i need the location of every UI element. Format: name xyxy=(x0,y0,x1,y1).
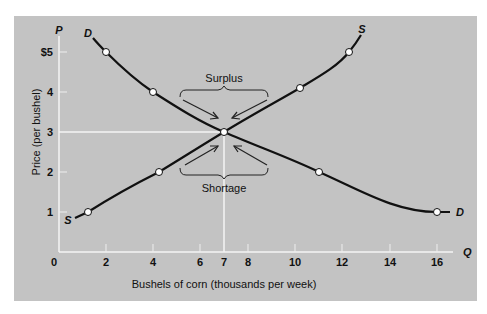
svg-text:12: 12 xyxy=(336,256,348,268)
demand-curve xyxy=(93,38,450,212)
demand-label-bottom: D xyxy=(456,206,464,218)
svg-text:4: 4 xyxy=(47,86,54,98)
supply-demand-chart: Surplus Shortage P Q D D S S $5 4 3 2 1 … xyxy=(0,0,487,314)
svg-text:6: 6 xyxy=(197,256,203,268)
svg-text:4: 4 xyxy=(150,256,157,268)
surplus-label: Surplus xyxy=(205,72,243,84)
svg-text:2: 2 xyxy=(47,166,53,178)
x-axis-ticks xyxy=(106,244,437,252)
supply-label-top: S xyxy=(358,23,366,35)
y-axis-symbol: P xyxy=(55,24,63,36)
svg-text:16: 16 xyxy=(431,256,443,268)
svg-text:1: 1 xyxy=(47,206,53,218)
svg-text:7: 7 xyxy=(221,256,227,268)
svg-text:14: 14 xyxy=(384,256,397,268)
svg-text:10: 10 xyxy=(289,256,301,268)
x-axis-label: Bushels of corn (thousands per week) xyxy=(132,278,317,290)
x-axis-symbol: Q xyxy=(463,246,472,258)
supply-label-bottom: S xyxy=(64,214,72,226)
y-axis-label: Price (per bushel) xyxy=(30,89,42,176)
svg-text:2: 2 xyxy=(103,256,109,268)
demand-label-top: D xyxy=(84,27,92,39)
surplus-bracket xyxy=(180,86,268,97)
svg-text:3: 3 xyxy=(47,126,53,138)
svg-text:$5: $5 xyxy=(41,46,53,58)
y-tick-labels: $5 4 3 2 1 xyxy=(41,46,54,218)
svg-text:0: 0 xyxy=(51,256,57,268)
equilibrium-point xyxy=(221,129,228,136)
x-tick-labels: 0 2 4 6 7 8 10 12 14 16 xyxy=(51,256,443,268)
svg-text:8: 8 xyxy=(245,256,251,268)
shortage-label: Shortage xyxy=(202,182,247,194)
surplus-arrows xyxy=(183,100,267,119)
